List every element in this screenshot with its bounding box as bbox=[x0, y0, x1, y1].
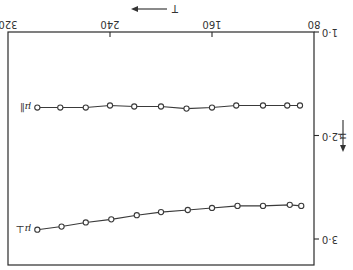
chart-figure: 80160240320 1·02·03·0 μ∥μ⊥ T μ bbox=[0, 0, 353, 270]
arrow-right-icon bbox=[131, 6, 138, 12]
data-point-marker bbox=[109, 217, 114, 222]
mu-perp-label: μ⊥ bbox=[15, 224, 31, 235]
data-point-marker bbox=[83, 105, 88, 110]
y-tick-label: 1·0 bbox=[322, 27, 338, 38]
data-point-marker bbox=[235, 203, 240, 208]
x-tick-label: 320 bbox=[0, 19, 18, 30]
plot-frame bbox=[8, 32, 314, 265]
data-point-marker bbox=[35, 105, 40, 110]
chart-svg: 80160240320 1·02·03·0 μ∥μ⊥ T μ bbox=[0, 0, 353, 270]
data-point-marker bbox=[132, 104, 137, 109]
data-point-marker bbox=[58, 105, 63, 110]
x-axis-label: T bbox=[171, 3, 179, 14]
y-tick-label: 3·0 bbox=[322, 234, 338, 245]
data-point-marker bbox=[297, 103, 302, 108]
data-point-marker bbox=[158, 104, 163, 109]
data-point-marker bbox=[59, 224, 64, 229]
data-point-marker bbox=[299, 203, 304, 208]
data-point-marker bbox=[209, 205, 214, 210]
x-tick-label: 240 bbox=[100, 19, 119, 30]
x-axis-title: T bbox=[131, 3, 179, 14]
data-point-marker bbox=[107, 103, 112, 108]
data-point-marker bbox=[260, 103, 265, 108]
data-point-marker bbox=[185, 207, 190, 212]
data-point-marker bbox=[184, 106, 189, 111]
data-point-marker bbox=[209, 105, 214, 110]
data-point-marker bbox=[234, 103, 239, 108]
x-axis-ticks: 80160240320 bbox=[0, 19, 320, 37]
data-point-marker bbox=[134, 213, 139, 218]
arrow-up-icon bbox=[340, 145, 346, 152]
data-point-marker bbox=[83, 220, 88, 225]
y-axis-title: μ bbox=[338, 120, 349, 152]
y-tick-label: 2·0 bbox=[322, 131, 338, 142]
x-tick-label: 80 bbox=[308, 19, 321, 30]
data-point-marker bbox=[158, 209, 163, 214]
data-point-marker bbox=[287, 202, 292, 207]
mu-parallel-label: μ∥ bbox=[20, 102, 31, 113]
y-axis-ticks: 1·02·03·0 bbox=[314, 27, 338, 245]
data-point-marker bbox=[285, 103, 290, 108]
data-series: μ∥μ⊥ bbox=[15, 102, 303, 235]
x-tick-label: 160 bbox=[202, 19, 221, 30]
data-point-marker bbox=[35, 227, 40, 232]
data-point-marker bbox=[260, 203, 265, 208]
